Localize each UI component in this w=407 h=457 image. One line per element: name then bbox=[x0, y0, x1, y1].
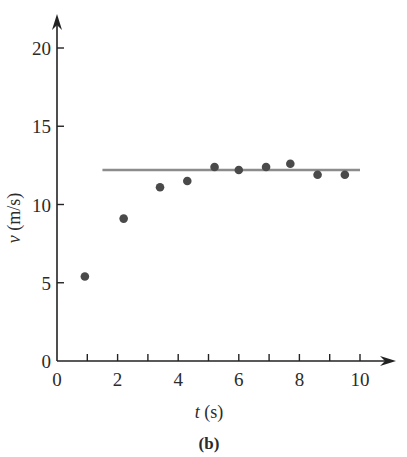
x-tick-label: 0 bbox=[52, 369, 62, 390]
data-point bbox=[286, 160, 295, 169]
x-tick-label: 10 bbox=[351, 369, 370, 390]
x-tick-label: 4 bbox=[173, 369, 183, 390]
x-tick-label: 8 bbox=[295, 369, 305, 390]
y-tick-label: 15 bbox=[32, 116, 51, 137]
panel-label: (b) bbox=[199, 434, 220, 453]
y-tick-label: 20 bbox=[32, 38, 51, 59]
data-point bbox=[183, 177, 192, 186]
data-point bbox=[210, 163, 219, 172]
data-point bbox=[156, 183, 165, 192]
data-point bbox=[341, 170, 350, 179]
x-tick-label: 2 bbox=[113, 369, 123, 390]
ticks: 051015200246810 bbox=[32, 38, 370, 390]
data-point bbox=[262, 163, 271, 172]
data-point bbox=[119, 214, 128, 223]
data-point bbox=[81, 272, 90, 281]
x-tick-label: 6 bbox=[234, 369, 244, 390]
y-tick-label: 0 bbox=[42, 351, 52, 372]
chart: 051015200246810 v (m/s) t (s) (b) bbox=[0, 0, 407, 457]
x-axis-label: t (s) bbox=[195, 402, 224, 423]
y-tick-label: 10 bbox=[32, 195, 51, 216]
y-axis-label: v (m/s) bbox=[4, 193, 25, 244]
data-point bbox=[313, 170, 322, 179]
data-points bbox=[81, 160, 350, 281]
axes bbox=[52, 14, 396, 366]
y-tick-label: 5 bbox=[42, 273, 52, 294]
data-point bbox=[235, 166, 244, 175]
